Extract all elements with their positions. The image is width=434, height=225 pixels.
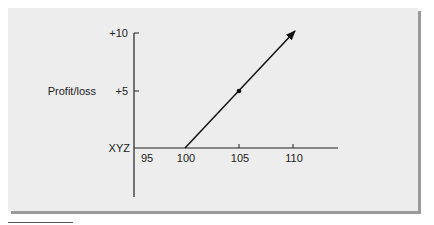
payoff-chart: +10 Profit/loss +5 XYZ 95 100 105 110 [0, 0, 434, 225]
data-point-marker [237, 89, 242, 94]
x-tick-label-95: 95 [141, 152, 153, 164]
x-tick-label-105: 105 [231, 152, 249, 164]
y-tick-label-10: +10 [109, 27, 128, 39]
x-tick-label-100: 100 [177, 152, 195, 164]
y-tick-label-5: +5 [115, 85, 128, 97]
x-tick-label-110: 110 [285, 152, 303, 164]
y-axis-title: Profit/loss [48, 85, 97, 97]
x-axis-title: XYZ [109, 142, 131, 154]
